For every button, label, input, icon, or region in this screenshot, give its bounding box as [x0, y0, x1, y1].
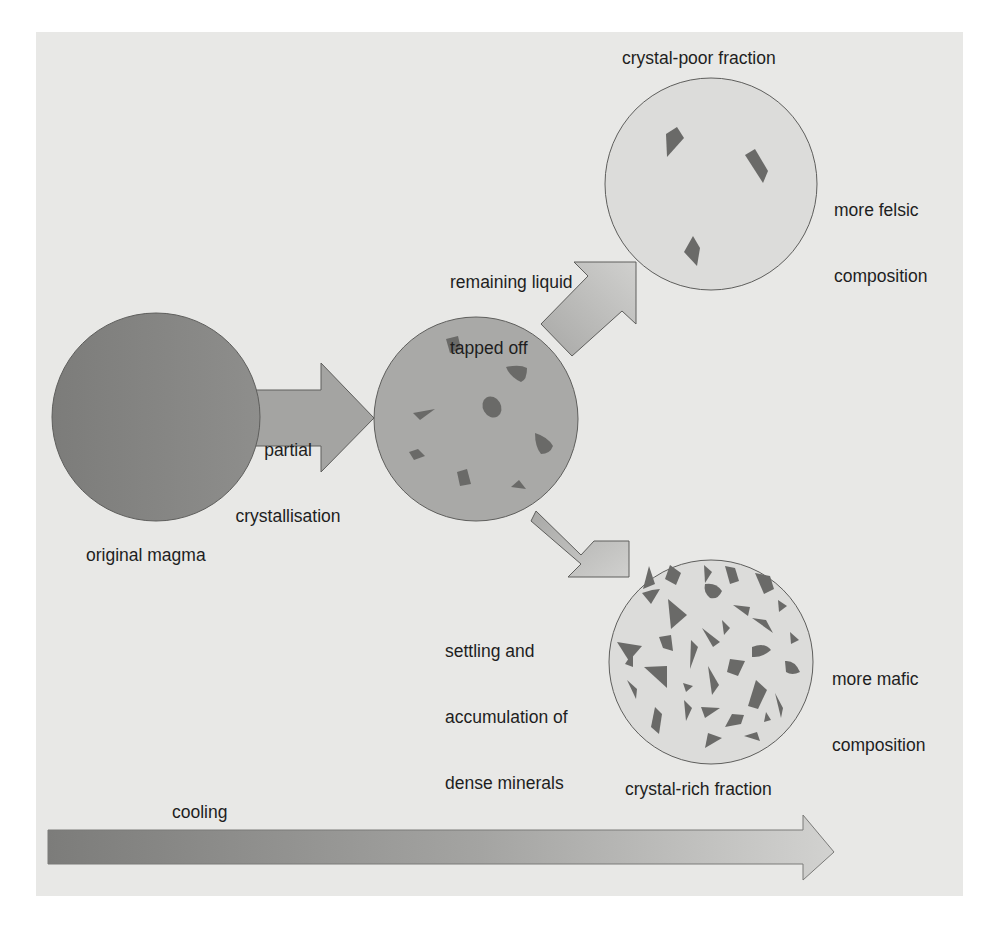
- crystal-rich-fraction-label: crystal-rich fraction: [625, 778, 772, 800]
- more-mafic-line1: more mafic: [832, 668, 925, 690]
- more-felsic-line1: more felsic: [834, 199, 927, 221]
- settling-arrow: [531, 511, 629, 577]
- remaining-liquid-line2: tapped off: [450, 337, 573, 359]
- more-mafic-label: more mafic composition: [832, 624, 925, 778]
- partial-line2: crystallisation: [221, 505, 355, 527]
- crystal-poor-fraction-circle: [605, 78, 817, 290]
- more-felsic-label: more felsic composition: [834, 155, 927, 309]
- partial-line1: partial: [221, 439, 355, 461]
- settling-line1: settling and: [445, 640, 568, 662]
- more-felsic-line2: composition: [834, 265, 927, 287]
- settling-label: settling and accumulation of dense miner…: [445, 596, 568, 816]
- settling-line2: accumulation of: [445, 706, 568, 728]
- cooling-label: cooling: [172, 801, 227, 823]
- more-mafic-line2: composition: [832, 734, 925, 756]
- cooling-arrow: [48, 815, 834, 880]
- partial-crystallisation-label: partial crystallisation: [221, 395, 355, 549]
- remaining-liquid-line1: remaining liquid: [450, 271, 573, 293]
- crystal-poor-fraction-label: crystal-poor fraction: [622, 47, 776, 69]
- original-magma-label: original magma: [86, 544, 206, 566]
- settling-line3: dense minerals: [445, 772, 568, 794]
- crystal-rich-fraction-circle: [609, 560, 813, 764]
- remaining-liquid-label: remaining liquid tapped off: [450, 227, 573, 381]
